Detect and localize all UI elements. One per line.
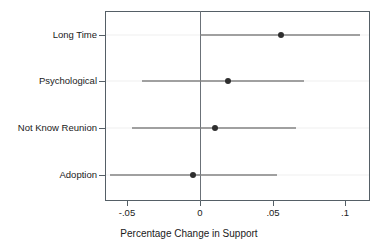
x-axis-tick-label: .1 <box>341 207 349 218</box>
x-axis-title: Percentage Change in Support <box>0 228 378 240</box>
row-guide <box>106 81 369 82</box>
plot-panel <box>105 11 370 201</box>
coefficient-plot-figure: Long Time Psychological Not Know Reunion… <box>0 0 378 251</box>
x-axis-tick-label: -.05 <box>119 207 135 218</box>
y-axis-tick <box>99 175 105 176</box>
y-axis-label-adoption: Adoption <box>0 170 97 180</box>
y-axis-label-long-time: Long Time <box>0 30 97 40</box>
x-axis-tick-label: .05 <box>266 207 279 218</box>
y-axis-label-not-know-reunion: Not Know Reunion <box>0 123 97 133</box>
y-axis-label-psychological: Psychological <box>0 76 97 86</box>
x-axis-tick <box>127 201 128 206</box>
row-guide <box>106 35 369 36</box>
row-guide <box>106 128 369 129</box>
x-axis-tick <box>273 201 274 206</box>
y-axis-tick <box>99 81 105 82</box>
zero-reference-line <box>200 11 201 201</box>
y-axis-tick <box>99 128 105 129</box>
x-axis-tick-label: 0 <box>197 207 202 218</box>
y-axis-tick <box>99 35 105 36</box>
row-guide <box>106 175 369 176</box>
x-axis-tick <box>200 201 201 206</box>
x-axis-tick <box>345 201 346 206</box>
